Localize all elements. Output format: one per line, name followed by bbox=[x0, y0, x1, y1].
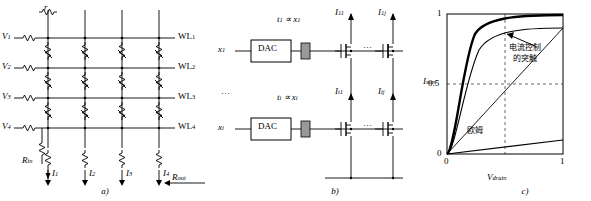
panel-b-dac-array: x1 xi DAC DAC t1 ∝ x1 ti ∝ xi I11 I1j Ii… bbox=[215, 0, 415, 201]
wordline-label-1: WL1 bbox=[178, 31, 195, 41]
ellipsis-cols-bottom: … bbox=[363, 118, 372, 128]
row-input-label-2: V2 bbox=[2, 61, 11, 71]
x-axis-label: Vdrain bbox=[487, 172, 507, 182]
r-out-label: Rout bbox=[172, 172, 186, 182]
column-current-label-4: I4 bbox=[163, 168, 169, 178]
r-in-label: Rin bbox=[22, 155, 33, 165]
row-input-label-3: V3 bbox=[2, 91, 11, 101]
input-label-xi: xi bbox=[218, 122, 224, 132]
x-tick-1: 1 bbox=[560, 156, 565, 166]
panel-a-crossbar: V1 V2 V3 V4 r WL1 WL2 WL3 WL4 Rin I1 I2 … bbox=[0, 0, 215, 201]
y-tick-0: 0 bbox=[437, 148, 442, 158]
ellipsis-rows: … bbox=[221, 86, 230, 96]
dac-box-label-2: DAC bbox=[258, 121, 277, 131]
current-label-Iij: Iij bbox=[378, 86, 385, 96]
wordline-label-3: WL3 bbox=[178, 91, 195, 101]
y-tick-half: 0.5 bbox=[428, 78, 439, 88]
row-input-label-1: V1 bbox=[2, 31, 11, 41]
caption-a: a) bbox=[90, 186, 120, 196]
wordline-label-4: WL4 bbox=[178, 121, 195, 131]
annotation-current-controlled-synapse: 电流控制 的突触 bbox=[509, 42, 541, 64]
column-current-label-2: I2 bbox=[89, 168, 95, 178]
column-current-label-3: I3 bbox=[126, 168, 132, 178]
caption-c: c) bbox=[510, 186, 540, 196]
annotation-ohmic: 欧姆 bbox=[467, 124, 483, 135]
current-label-I1j: I1j bbox=[378, 7, 386, 17]
column-current-label-1: I1 bbox=[52, 168, 58, 178]
pulse-relation-label-2: ti ∝ xi bbox=[277, 92, 298, 102]
x-tick-0: 0 bbox=[444, 156, 449, 166]
input-label-x1: x1 bbox=[218, 44, 225, 54]
current-label-I11: I11 bbox=[335, 7, 344, 17]
caption-b: b) bbox=[320, 186, 350, 196]
resistor-label-r: r bbox=[44, 2, 48, 12]
wordline-label-2: WL2 bbox=[178, 61, 195, 71]
panel-c-iv-plot: Isum Vdrain 0 0.5 1 0 1 电流控制 的突触 欧姆 bbox=[415, 0, 591, 201]
y-tick-1: 1 bbox=[437, 8, 442, 18]
row-input-label-4: V4 bbox=[2, 121, 11, 131]
ellipsis-cols-top: … bbox=[363, 40, 372, 50]
current-label-Ii1: Ii1 bbox=[335, 86, 343, 96]
dac-box-label-1: DAC bbox=[258, 43, 277, 53]
pulse-relation-label-1: t1 ∝ x1 bbox=[277, 14, 301, 24]
